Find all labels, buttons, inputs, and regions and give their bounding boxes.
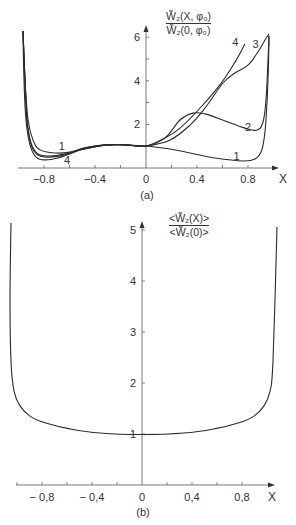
y-tick-label: 2	[134, 118, 140, 130]
panel-b-caption: (b)	[136, 506, 149, 518]
x-axis-arrow-icon	[272, 166, 279, 171]
y-axis-arrow-icon	[144, 25, 149, 32]
y-tick-label: 2	[130, 377, 136, 389]
panel-b-y-numerator: <W̃₂(X)>	[169, 213, 209, 226]
panel-b-y-axis-label: <W̃₂(X)> <W̃₂(0)>	[169, 213, 209, 237]
curve-label-2: 2	[245, 121, 251, 133]
x-tick-label: 0.8	[240, 173, 255, 185]
panel-a-plot: −0.8−0.400.40.8246112344	[18, 25, 279, 185]
x-tick-label: 0	[139, 491, 145, 503]
x-axis-arrow-icon	[268, 483, 275, 488]
panel-b-x-axis-label: X	[268, 490, 276, 504]
y-axis-arrow-icon	[140, 221, 145, 228]
x-tick-label: −0.8	[33, 173, 55, 185]
x-tick-label: 0,4	[184, 491, 199, 503]
panel-b-y-denominator: <W̃₂(0)>	[169, 226, 209, 238]
x-tick-label: 0.4	[189, 173, 204, 185]
y-tick-label: 5	[130, 224, 136, 236]
y-tick-label: 4	[134, 75, 140, 87]
y-tick-label: 6	[134, 31, 140, 43]
y-tick-label: 3	[130, 326, 136, 338]
panel-a-caption: (a)	[140, 189, 153, 201]
panel-b-plot: − 0,8− 0,400,40,812345	[10, 221, 277, 503]
curve-mean	[10, 223, 277, 435]
curve-label-4: 4	[232, 36, 238, 48]
x-tick-label: −0.4	[84, 173, 106, 185]
x-tick-label: 0	[143, 173, 149, 185]
figure-canvas: −0.8−0.400.40.8246112344 − 0,8− 0,400,40…	[0, 0, 296, 525]
x-tick-label: − 0,8	[30, 491, 55, 503]
panel-a-y-denominator: W̃₂(0, φ₀)	[166, 24, 211, 36]
y-tick-label: 4	[130, 275, 136, 287]
curve-4	[23, 31, 245, 160]
curve-label-4: 4	[64, 154, 70, 166]
panel-a-x-axis-label: X	[279, 172, 287, 186]
curve-label-1: 1	[233, 150, 239, 162]
panel-a-y-axis-label: W̃₂(X, φ₀) W̃₂(0, φ₀)	[166, 11, 211, 35]
x-tick-label: 0,8	[234, 491, 249, 503]
curve-label-1: 1	[59, 140, 65, 152]
x-tick-label: − 0,4	[80, 491, 105, 503]
curve-label-3: 3	[253, 38, 259, 50]
panel-a-y-numerator: W̃₂(X, φ₀)	[166, 11, 211, 24]
